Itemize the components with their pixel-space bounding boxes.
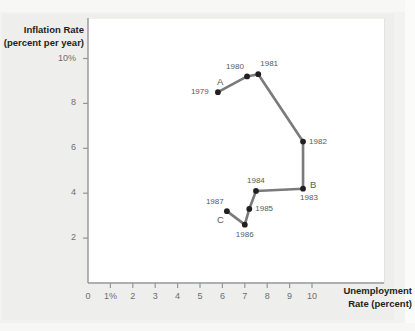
data-point-year-label: 1983: [300, 193, 318, 202]
y-axis-title-line1: Inflation Rate: [0, 24, 84, 37]
chart-figure: 10%8642 01%2345678910 1979A1980198119821…: [0, 0, 415, 331]
data-point-annotation-label: C: [217, 214, 224, 225]
data-point-marker: [255, 71, 261, 77]
x-axis-tick-label: 7: [233, 291, 257, 301]
data-point-marker: [242, 222, 248, 228]
y-axis-tick-label: 10%: [50, 53, 76, 63]
data-point-year-label: 1984: [247, 176, 265, 185]
data-point-year-label: 1982: [309, 137, 327, 146]
data-point-annotation-label: A: [217, 76, 223, 87]
data-point-marker: [224, 208, 230, 214]
y-axis-tick-label: 6: [50, 142, 76, 152]
data-point-year-label: 1986: [236, 230, 254, 239]
x-axis-tick-label: 9: [278, 291, 302, 301]
x-axis-tick-label: 3: [143, 291, 167, 301]
chart-area: 10%8642 01%2345678910 1979A1980198119821…: [0, 0, 415, 331]
data-point-marker: [253, 188, 259, 194]
y-axis-tick-label: 8: [50, 97, 76, 107]
x-axis-tick-label: 4: [166, 291, 190, 301]
y-axis-tick-label: 4: [50, 187, 76, 197]
x-axis-tick-label: 0: [76, 291, 100, 301]
axes-group: [88, 18, 384, 283]
data-point-marker: [244, 74, 250, 80]
x-axis-tick-label: 8: [255, 291, 279, 301]
x-axis-tick-label: 6: [210, 291, 234, 301]
data-series-group: [218, 74, 303, 224]
x-axis-title: Unemployment Rate (percent): [316, 285, 412, 310]
data-point-annotation-label: B: [310, 179, 316, 190]
data-point-year-label: 1985: [255, 204, 273, 213]
x-axis-tick-label: 2: [121, 291, 145, 301]
data-point-marker: [215, 89, 221, 95]
data-point-year-label: 1980: [226, 62, 244, 71]
y-axis-title-line2: (percent per year): [0, 37, 84, 50]
data-line: [218, 74, 303, 224]
x-axis-tick-label: 5: [188, 291, 212, 301]
x-axis-tick-label: 1%: [98, 291, 122, 301]
data-point-marker: [246, 206, 252, 212]
data-point-year-label: 1987: [206, 197, 224, 206]
data-point-year-label: 1981: [260, 59, 278, 68]
data-point-marker: [300, 186, 306, 192]
y-axis-title: Inflation Rate (percent per year): [0, 24, 84, 49]
data-point-year-label: 1979: [191, 87, 209, 96]
data-point-marker: [300, 139, 306, 145]
x-axis-title-line2: Rate (percent): [316, 298, 412, 311]
chart-canvas: [0, 0, 415, 331]
y-axis-tick-label: 2: [50, 232, 76, 242]
x-axis-title-line1: Unemployment: [316, 285, 412, 298]
